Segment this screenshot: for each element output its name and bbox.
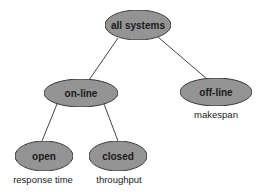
- annotation-response-time: response time: [13, 174, 73, 185]
- node-label-closed: closed: [102, 151, 134, 162]
- node-all-systems: all systems: [105, 10, 171, 40]
- edge-on-line-to-open: [42, 104, 57, 141]
- edge-all-systems-to-on-line: [89, 38, 118, 80]
- edge-all-systems-to-off-line: [158, 37, 207, 79]
- node-off-line: off-line: [180, 78, 252, 106]
- annotation-makespan: makespan: [194, 109, 238, 120]
- node-label-on-line: on-line: [65, 88, 98, 99]
- node-open: open: [15, 141, 73, 171]
- node-on-line: on-line: [44, 79, 118, 107]
- tree-diagram: all systems on-line off-line open closed…: [0, 0, 267, 192]
- node-label-open: open: [32, 151, 56, 162]
- node-label-off-line: off-line: [199, 87, 233, 98]
- edge-on-line-to-closed: [104, 104, 118, 141]
- annotation-throughput: throughput: [96, 174, 142, 185]
- node-label-all-systems: all systems: [111, 20, 165, 31]
- node-closed: closed: [89, 141, 147, 171]
